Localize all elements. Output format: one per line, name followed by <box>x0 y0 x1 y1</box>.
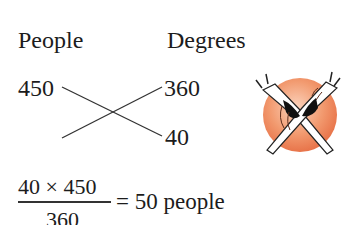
fraction-bar <box>18 201 111 203</box>
formula-result: = 50 people <box>116 190 225 213</box>
crossed-dancers-icon <box>256 72 340 154</box>
formula-numerator: 40 × 450 <box>18 176 96 198</box>
formula-denominator: 360 <box>46 209 79 225</box>
